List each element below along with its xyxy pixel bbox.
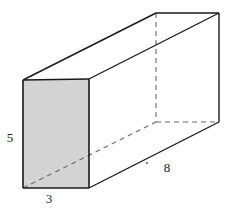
rectangular-prism-figure: 5 3 8 — [0, 0, 233, 211]
edge-top-left-diagonal — [23, 13, 156, 80]
prism-svg — [0, 0, 233, 211]
width-label: 3 — [46, 192, 53, 205]
edge-bottom-right-diagonal — [89, 122, 219, 188]
edge-front-top — [23, 79, 89, 80]
tick-mark-depth — [146, 162, 148, 164]
depth-label: 8 — [164, 161, 171, 174]
height-label: 5 — [7, 131, 14, 144]
edge-top-right-diagonal — [89, 13, 219, 79]
